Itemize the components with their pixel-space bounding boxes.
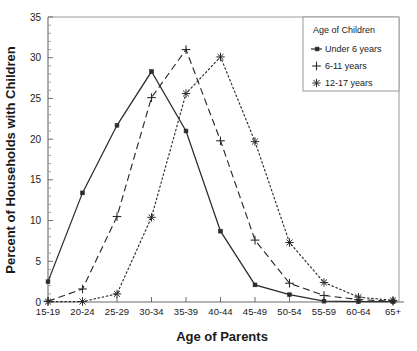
data-point-marker [46,280,50,284]
legend-entry-label: Under 6 years [325,44,382,54]
data-point-marker [78,297,86,305]
x-tick-label: 40-44 [208,306,232,317]
data-point-marker [251,137,259,145]
x-tick-label: 35-39 [174,306,198,317]
x-tick-label: 60-64 [346,306,370,317]
chart-legend: Age of Children Under 6 years6-11 years1… [303,17,399,91]
y-axis-title: Percent of Households with Children [3,46,18,274]
y-tick-label: 25 [30,93,42,104]
y-tick-label: 15 [30,174,42,185]
x-axis-title: Age of Parents [176,329,268,344]
x-tick-label: 45-49 [243,306,267,317]
chart-figure: 05101520253035 15-1920-2425-2930-3435-39… [0,0,417,351]
data-point-marker [253,283,257,287]
x-tick-label: 20-24 [70,306,94,317]
legend-entry-label: 12-17 years [325,78,373,88]
data-point-marker [322,299,326,303]
x-tick-label: 30-34 [139,306,163,317]
data-point-marker [115,123,119,127]
data-point-marker [81,191,85,195]
data-point-marker [285,238,293,246]
legend-entry-label: 6-11 years [325,61,367,71]
x-tick-label: 55-59 [312,306,336,317]
x-tick-label: 25-29 [105,306,129,317]
data-point-marker [389,296,397,304]
x-axis-tick-labels: 15-1920-2425-2930-3435-3940-4445-4950-54… [36,306,402,317]
x-tick-label: 50-54 [277,306,301,317]
data-point-marker [216,53,224,61]
data-point-marker [354,293,362,301]
data-point-marker [150,70,154,74]
y-tick-label: 5 [35,256,41,267]
data-point-marker [219,229,223,233]
data-point-marker [44,297,52,305]
data-point-marker [113,290,121,298]
x-tick-label: 15-19 [36,306,60,317]
data-point-marker [184,129,188,133]
line-chart: 05101520253035 15-1920-2425-2930-3435-39… [0,0,417,351]
data-point-marker [312,79,320,87]
y-tick-label: 10 [30,215,42,226]
data-point-marker [182,89,190,97]
y-tick-label: 20 [30,134,42,145]
data-point-marker [147,213,155,221]
x-tick-label: 65+ [385,306,402,317]
data-point-marker [288,293,292,297]
y-tick-label: 35 [30,12,42,23]
y-tick-label: 30 [30,52,42,63]
data-point-marker [320,278,328,286]
legend-title: Age of Children [313,25,375,35]
